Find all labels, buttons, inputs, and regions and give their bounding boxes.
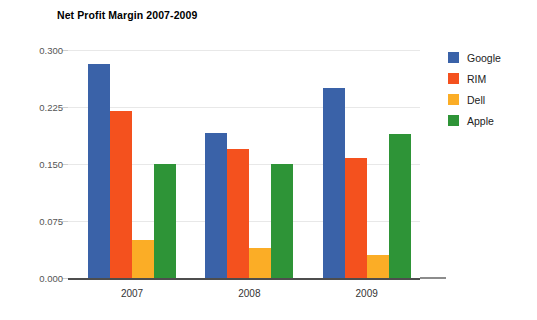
bar-group [323, 50, 411, 278]
bar-dell-2009[interactable] [367, 255, 389, 278]
y-axis-tick-label: 0.000 [39, 273, 63, 284]
bar-group [205, 50, 293, 278]
bar-google-2008[interactable] [205, 133, 227, 278]
bar-dell-2008[interactable] [249, 248, 271, 278]
legend-item-label: Google [467, 52, 501, 64]
gridline [68, 278, 420, 280]
legend-swatch-icon [448, 52, 459, 63]
plot-area [68, 50, 420, 278]
bar-rim-2007[interactable] [110, 111, 132, 278]
legend-swatch-icon [448, 94, 459, 105]
bar-group [88, 50, 176, 278]
legend-swatch-icon [448, 115, 459, 126]
y-axis-tick-label: 0.075 [39, 216, 63, 227]
legend-swatch-icon [448, 73, 459, 84]
x-axis-tick-label: 2009 [356, 288, 378, 299]
legend-item-label: RIM [467, 73, 486, 85]
chart-legend: GoogleRIMDellApple [448, 47, 501, 131]
bar-rim-2009[interactable] [345, 158, 367, 278]
legend-item-label: Dell [467, 94, 485, 106]
legend-item-google[interactable]: Google [448, 47, 501, 68]
bar-chart: Net Profit Margin 2007-2009 0.0000.0750.… [0, 0, 537, 320]
y-axis-tick-label: 0.225 [39, 102, 63, 113]
y-axis-tick-label: 0.150 [39, 159, 63, 170]
bar-apple-2007[interactable] [154, 164, 176, 278]
bar-apple-2008[interactable] [271, 164, 293, 278]
axis-baseline-extension [420, 277, 446, 279]
chart-title: Net Profit Margin 2007-2009 [57, 9, 197, 21]
x-axis-tick-label: 2008 [238, 288, 260, 299]
bar-google-2009[interactable] [323, 88, 345, 278]
bar-dell-2007[interactable] [132, 240, 154, 278]
bar-rim-2008[interactable] [227, 149, 249, 278]
x-axis-tick-label: 2007 [121, 288, 143, 299]
y-axis-tick-label: 0.300 [39, 45, 63, 56]
legend-item-dell[interactable]: Dell [448, 89, 501, 110]
legend-item-rim[interactable]: RIM [448, 68, 501, 89]
legend-item-label: Apple [467, 115, 494, 127]
bar-google-2007[interactable] [88, 64, 110, 278]
legend-item-apple[interactable]: Apple [448, 110, 501, 131]
bar-apple-2009[interactable] [389, 134, 411, 278]
